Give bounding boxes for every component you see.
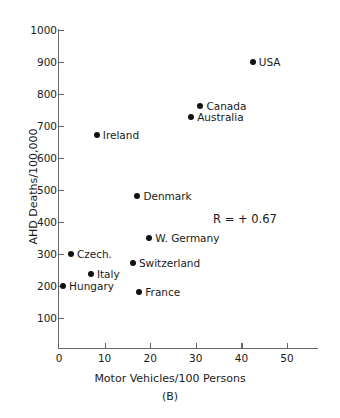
x-tick-label: 0 — [56, 353, 63, 364]
data-point-label: Switzerland — [139, 258, 200, 269]
y-tick-label: 100 — [37, 313, 57, 324]
x-tick-mark — [241, 343, 242, 348]
y-tick-mark — [59, 94, 64, 95]
data-point-label: W. Germany — [155, 233, 219, 244]
y-tick-label: 600 — [37, 153, 57, 164]
y-tick-label: 800 — [37, 89, 57, 100]
data-point-label: Denmark — [143, 191, 191, 202]
data-point-label: Czech. — [77, 249, 112, 260]
y-tick-mark — [59, 254, 64, 255]
y-tick-label: 300 — [37, 249, 57, 260]
data-point — [188, 114, 194, 120]
data-point — [130, 260, 136, 266]
x-tick-mark — [150, 343, 151, 348]
x-tick-mark — [105, 343, 106, 348]
data-point-label: France — [145, 287, 180, 298]
data-point — [88, 271, 94, 277]
correlation-annotation: R = + 0.67 — [213, 212, 277, 226]
y-tick-mark — [59, 318, 64, 319]
y-tick-mark — [59, 222, 64, 223]
x-axis-line — [58, 348, 318, 349]
data-point-label: Australia — [197, 112, 243, 123]
data-point — [94, 132, 100, 138]
y-tick-label: 400 — [37, 217, 57, 228]
data-point — [134, 193, 140, 199]
data-point — [136, 289, 142, 295]
y-tick-label: 900 — [37, 57, 57, 68]
x-tick-label: 30 — [189, 353, 202, 364]
data-point-label: Canada — [206, 101, 246, 112]
x-tick-label: 10 — [98, 353, 111, 364]
y-tick-mark — [59, 30, 64, 31]
data-point — [68, 251, 74, 257]
x-tick-label: 50 — [280, 353, 293, 364]
scatter-plot-figure: 1002003004005006007008009001000 01020304… — [0, 0, 340, 418]
data-point-label: Hungary — [69, 281, 114, 292]
y-axis-line — [58, 29, 59, 349]
y-tick-label: 200 — [37, 281, 57, 292]
panel-caption: (B) — [0, 390, 340, 403]
data-point — [146, 235, 152, 241]
x-tick-label: 40 — [235, 353, 248, 364]
y-tick-mark — [59, 190, 64, 191]
y-tick-mark — [59, 126, 64, 127]
y-tick-label: 1000 — [30, 25, 57, 36]
x-tick-mark — [287, 343, 288, 348]
data-point-label: Italy — [97, 268, 120, 279]
y-tick-mark — [59, 62, 64, 63]
data-point-label: USA — [259, 57, 281, 68]
y-tick-label: 500 — [37, 185, 57, 196]
data-point — [197, 103, 203, 109]
x-tick-label: 20 — [144, 353, 157, 364]
data-point — [250, 59, 256, 65]
data-point — [60, 283, 66, 289]
x-tick-mark — [196, 343, 197, 348]
y-tick-label: 700 — [37, 121, 57, 132]
data-point-label: Ireland — [103, 130, 139, 141]
y-axis-title: AHD Deaths/100,000 — [27, 107, 40, 267]
x-axis-title: Motor Vehicles/100 Persons — [0, 372, 340, 385]
y-tick-mark — [59, 158, 64, 159]
